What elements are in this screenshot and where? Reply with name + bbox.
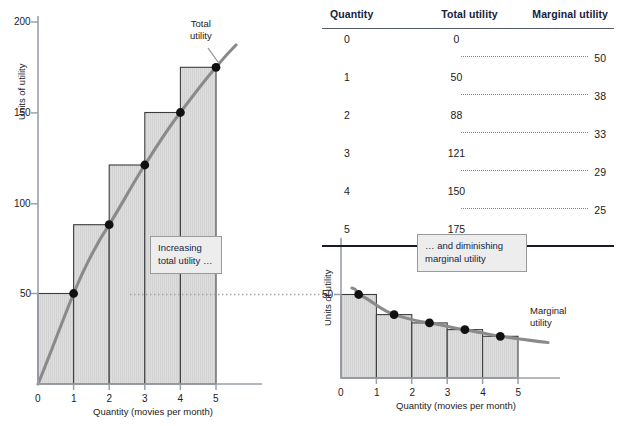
marginal-chart-xtick-4: 4: [480, 386, 486, 399]
cell-marginal-spacer: [518, 105, 614, 125]
marginal-chart-xtick-0: 0: [338, 386, 344, 399]
total-utility-chart-plot: [31, 16, 262, 390]
total-chart-xtick-2: 2: [106, 392, 112, 405]
cell-quantity: 4: [322, 181, 421, 201]
marginal-chart-x-axis-label: Quantity (movies per month): [396, 400, 516, 412]
total-chart-ytick-100: 100: [14, 197, 31, 210]
column-header-total-utility: Total utility: [421, 4, 517, 28]
cell-marginal-spacer: [518, 29, 614, 49]
marginal-row: 29: [322, 163, 614, 181]
column-header-marginal-utility: Marginal utility: [518, 4, 614, 28]
marginal-row: 50: [322, 49, 614, 67]
marginal-row: 38: [322, 87, 614, 105]
cell-total-utility: 121: [421, 143, 517, 163]
marginal-chart-xtick-5: 5: [516, 386, 522, 399]
marginal-leader-dots: [461, 208, 588, 210]
figure-root: Quantity Total utility Marginal utility …: [0, 0, 620, 426]
total-utility-label-leader: [208, 48, 218, 62]
cell-marginal-spacer: [518, 181, 614, 201]
cell-quantity: 5: [322, 219, 421, 239]
marginal-leader-dots: [461, 94, 588, 96]
total-chart-x-ticks: [74, 384, 216, 390]
cell-total-utility: 88: [421, 105, 517, 125]
total-chart-ytick-150: 150: [14, 106, 31, 119]
marginal-chart-xtick-2: 2: [409, 386, 415, 399]
cell-marginal-utility: 25: [591, 204, 606, 216]
cell-marginal-spacer: [518, 143, 614, 163]
marginal-leader-dots: [461, 132, 588, 134]
total-chart-ytick-50: 50: [20, 287, 31, 300]
cell-marginal-utility: 38: [591, 90, 606, 102]
table-row: 0 0: [322, 29, 614, 49]
total-utility-bars: [38, 67, 216, 384]
callout-diminishing-marginal-utility: … and diminishing marginal utility: [417, 234, 527, 272]
cell-quantity: 3: [322, 143, 421, 163]
total-chart-xtick-5: 5: [213, 392, 219, 405]
marginal-chart-xtick-1: 1: [374, 386, 380, 399]
marginal-chart-ytick-50: 50: [322, 288, 333, 301]
column-header-quantity: Quantity: [322, 4, 421, 28]
cell-quantity: 2: [322, 105, 421, 125]
cell-total-utility: 50: [421, 67, 517, 87]
total-chart-y-ticks: [31, 22, 38, 294]
cell-marginal-spacer: [518, 219, 614, 239]
marginal-leader-dots: [461, 170, 588, 172]
callout-increasing-total-utility: Increasing total utility …: [150, 236, 222, 274]
total-utility-curve-label: Total utility: [190, 18, 212, 43]
total-chart-xtick-4: 4: [178, 392, 184, 405]
marginal-chart-xtick-3: 3: [445, 386, 451, 399]
cell-total-utility: 0: [421, 29, 517, 49]
total-chart-xtick-3: 3: [142, 392, 148, 405]
table-row: 2 88: [322, 105, 614, 125]
total-chart-xtick-1: 1: [71, 392, 77, 405]
table-row: 4 150: [322, 181, 614, 201]
table-row: 3 121: [322, 143, 614, 163]
marginal-utility-curve-label: Marginal utility: [530, 305, 566, 330]
cell-quantity: 1: [322, 67, 421, 87]
total-chart-xtick-0: 0: [35, 392, 41, 405]
table-row: 1 50: [322, 67, 614, 87]
marginal-leader-dots: [461, 56, 588, 58]
cell-total-utility: 150: [421, 181, 517, 201]
table-header-row: Quantity Total utility Marginal utility: [322, 4, 614, 28]
cell-quantity: 0: [322, 29, 421, 49]
utility-table: Quantity Total utility Marginal utility …: [322, 4, 614, 247]
cell-marginal-utility: 29: [591, 166, 606, 178]
marginal-row: 33: [322, 125, 614, 143]
marginal-chart-x-ticks: [376, 378, 518, 384]
total-chart-ytick-200: 200: [14, 15, 31, 28]
cell-marginal-spacer: [518, 67, 614, 87]
cell-marginal-utility: 33: [591, 128, 606, 140]
marginal-row: 25: [322, 201, 614, 219]
total-chart-x-axis-label: Quantity (movies per month): [93, 406, 213, 418]
cell-marginal-utility: 50: [591, 52, 606, 64]
